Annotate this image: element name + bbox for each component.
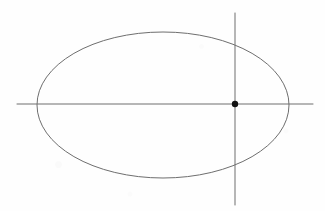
figure-container xyxy=(0,0,325,211)
ellipse-diagram-canvas xyxy=(0,0,325,211)
intersection-point-marker xyxy=(232,101,238,107)
